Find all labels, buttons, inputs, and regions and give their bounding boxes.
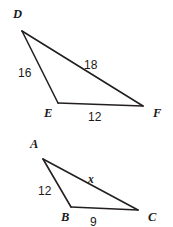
- side-label-ab: 12: [38, 184, 52, 198]
- side-label-df: 18: [84, 58, 98, 72]
- side-label-de: 16: [18, 66, 32, 80]
- geometry-figure: D E F 16 18 12 A B C 12 x 9: [0, 0, 173, 227]
- vertex-label-e: E: [43, 106, 52, 120]
- edge-e-f: [58, 103, 143, 106]
- vertex-label-a: A: [29, 137, 38, 151]
- vertex-label-b: B: [60, 210, 69, 224]
- triangle-def: D E F 16 18 12: [12, 7, 162, 124]
- triangles-diagram: D E F 16 18 12 A B C 12 x 9: [0, 0, 173, 227]
- vertex-label-d: D: [12, 7, 22, 21]
- triangle-abc: A B C 12 x 9: [29, 137, 157, 227]
- side-label-ef: 12: [88, 110, 102, 124]
- side-label-ac: x: [87, 173, 94, 185]
- edge-b-c: [71, 207, 138, 210]
- vertex-label-f: F: [152, 106, 162, 120]
- vertex-label-c: C: [148, 210, 157, 224]
- side-label-bc: 9: [90, 215, 97, 227]
